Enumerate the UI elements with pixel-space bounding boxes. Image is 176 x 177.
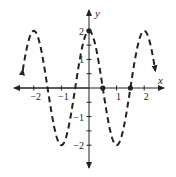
marked-points <box>86 28 133 90</box>
cosine-graph: −2−112−2−112 x y <box>0 0 176 177</box>
marked-point <box>128 85 133 90</box>
x-tick-label: −2 <box>30 91 41 102</box>
x-tick-label: 2 <box>144 91 149 102</box>
marked-point <box>86 28 91 33</box>
y-tick-label: −2 <box>73 140 84 151</box>
x-axis-label: x <box>157 74 163 86</box>
x-tick-label: −1 <box>58 91 69 102</box>
marked-point <box>100 85 105 90</box>
y-axis-label: y <box>94 7 100 19</box>
x-tick-label: 1 <box>116 91 121 102</box>
y-tick-label: −1 <box>73 112 84 123</box>
y-tick-label: 2 <box>79 26 84 37</box>
